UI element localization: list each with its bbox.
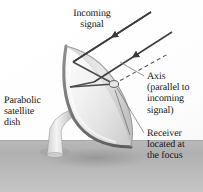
label-receiver-focus: Receiver located at the focus [147,128,203,162]
label-parabolic-satellite-dish: Parabolic satellite dish [4,95,64,129]
pedestal-base [47,152,63,157]
parabolic-dish-figure: Incoming signal Parabolic satellite dish… [0,0,203,192]
label-incoming-signal: Incoming signal [58,8,126,30]
focus-point [109,81,118,88]
label-axis: Axis (parallel to incoming signal) [147,71,203,116]
